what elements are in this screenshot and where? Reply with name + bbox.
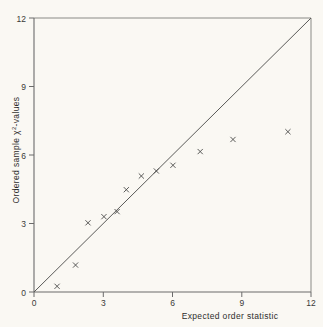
y-tick-label: 9 (21, 82, 26, 92)
x-tick-label: 0 (32, 298, 37, 308)
qq-plot-figure: 12 9 6 3 0 0 3 6 9 12 Expected order sta… (0, 0, 323, 327)
y-axis-title: Ordered sample χ2-values (11, 97, 21, 204)
y-tick-label: 3 (21, 219, 26, 229)
x-tick-label: 12 (306, 298, 316, 308)
x-tick-label: 3 (101, 298, 106, 308)
y-tick-label: 0 (21, 288, 26, 298)
x-tick-label: 6 (170, 298, 175, 308)
chart-page: 12 9 6 3 0 0 3 6 9 12 Expected order sta… (0, 0, 323, 327)
y-tick-label: 12 (17, 14, 27, 24)
y-tick-label: 6 (21, 151, 26, 161)
x-tick-label: 9 (239, 298, 244, 308)
x-axis-title: Expected order statistic (182, 311, 279, 321)
